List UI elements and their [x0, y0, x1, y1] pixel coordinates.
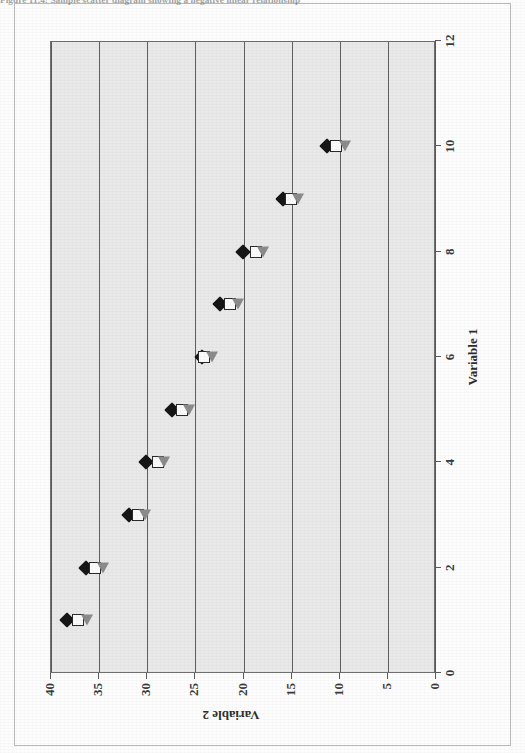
gridline: [339, 42, 340, 672]
y-tick-label: 0: [427, 683, 443, 711]
y-tick-label: 5: [378, 683, 394, 711]
rotated-chart-canvas: 024681012 0510152025303540 Variable 1 Va…: [28, 9, 498, 745]
y-tick: [386, 673, 387, 679]
scanned-page: Figure 11.4: Sample scatter diagram show…: [0, 0, 525, 753]
data-point-gray-triangle: [256, 246, 268, 257]
gridline: [51, 42, 52, 672]
y-tick: [146, 673, 147, 679]
y-tick: [50, 673, 51, 679]
plot-area: [50, 41, 435, 673]
gridline: [99, 42, 100, 672]
gridline: [387, 42, 388, 672]
x-tick-label: 8: [442, 236, 458, 266]
data-point-gray-triangle: [96, 562, 108, 573]
data-point-gray-triangle: [182, 404, 194, 415]
y-tick-label: 35: [90, 683, 106, 711]
data-point-gray-triangle: [231, 298, 243, 309]
x-tick: [435, 145, 441, 146]
data-point-gray-triangle: [339, 140, 351, 151]
gridline: [243, 42, 244, 672]
x-tick-label: 6: [442, 342, 458, 372]
data-point-gray-triangle: [80, 614, 92, 625]
data-point-gray-triangle: [139, 509, 151, 520]
data-point-gray-triangle: [157, 456, 169, 467]
x-tick: [435, 356, 441, 357]
gridline: [147, 42, 148, 672]
x-tick: [435, 461, 441, 462]
x-tick-label: 2: [442, 552, 458, 582]
y-tick-label: 40: [42, 683, 58, 711]
y-tick: [98, 673, 99, 679]
y-tick: [338, 673, 339, 679]
x-tick-label: 10: [442, 131, 458, 161]
data-point-gray-triangle: [292, 193, 304, 204]
x-axis-title: Variable 1: [465, 41, 481, 673]
figure-caption: Figure 11.4: Sample scatter diagram show…: [0, 0, 420, 5]
y-tick: [290, 673, 291, 679]
x-tick-label: 0: [442, 658, 458, 688]
x-tick: [435, 250, 441, 251]
y-tick: [435, 673, 436, 679]
y-tick-label: 10: [330, 683, 346, 711]
x-tick-label: 12: [442, 26, 458, 56]
y-tick: [242, 673, 243, 679]
x-tick: [435, 566, 441, 567]
x-tick-label: 4: [442, 447, 458, 477]
gridline: [291, 42, 292, 672]
y-axis-title: Variable 2: [141, 707, 321, 723]
data-point-gray-triangle: [205, 351, 217, 362]
x-tick: [435, 40, 441, 41]
y-tick: [194, 673, 195, 679]
